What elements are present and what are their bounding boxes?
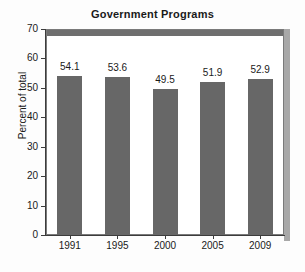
- y-tick-mark: [41, 235, 45, 236]
- y-tick-label: 30: [0, 142, 38, 152]
- y-tick-mark: [41, 58, 45, 59]
- y-tick-label: 40: [0, 112, 38, 122]
- y-tick-mark: [41, 147, 45, 148]
- y-axis-title: Percent of total: [17, 56, 28, 156]
- x-tick-label: 2005: [191, 240, 235, 251]
- x-tick-label: 2000: [143, 240, 187, 251]
- y-tick-mark: [41, 206, 45, 207]
- plot-top-band: [46, 29, 284, 36]
- bar[interactable]: [153, 89, 178, 235]
- bar[interactable]: [57, 76, 82, 235]
- plot-area: 54.153.649.551.952.9: [46, 29, 284, 235]
- x-tick-label: 1995: [95, 240, 139, 251]
- y-tick-label: 0: [0, 230, 38, 240]
- x-tick-mark: [213, 236, 214, 239]
- x-tick-mark: [260, 236, 261, 239]
- bar[interactable]: [105, 77, 130, 235]
- bar[interactable]: [200, 82, 225, 235]
- plot-right-shadow: [284, 29, 290, 241]
- y-tick-mark: [41, 176, 45, 177]
- bar[interactable]: [248, 79, 273, 235]
- y-axis-line: [45, 29, 46, 236]
- y-tick-label: 50: [0, 83, 38, 93]
- y-tick-label: 60: [0, 53, 38, 63]
- y-tick-label: 70: [0, 24, 38, 34]
- y-tick-label: 10: [0, 201, 38, 211]
- chart-title: Government Programs: [0, 8, 305, 20]
- chart-screenshot: Government Programs Percent of total 54.…: [0, 0, 305, 272]
- x-tick-mark: [70, 236, 71, 239]
- bar-value-label: 49.5: [145, 75, 185, 85]
- y-tick-mark: [41, 117, 45, 118]
- bar-value-label: 54.1: [50, 62, 90, 72]
- x-tick-mark: [165, 236, 166, 239]
- y-tick-label: 20: [0, 171, 38, 181]
- y-tick-mark: [41, 88, 45, 89]
- x-tick-mark: [117, 236, 118, 239]
- x-tick-label: 2009: [238, 240, 282, 251]
- y-tick-mark: [41, 29, 45, 30]
- bar-value-label: 51.9: [193, 68, 233, 78]
- x-tick-label: 1991: [48, 240, 92, 251]
- bar-value-label: 53.6: [97, 63, 137, 73]
- bar-value-label: 52.9: [240, 65, 280, 75]
